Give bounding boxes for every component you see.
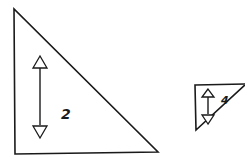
- small-triangle-group: 4: [195, 84, 245, 130]
- large-height-label: 2: [61, 106, 71, 122]
- large-triangle-group: 2: [14, 9, 158, 154]
- large-triangle: [14, 9, 158, 154]
- small-height-label: 4: [220, 94, 229, 107]
- small-triangle: [195, 84, 245, 130]
- diagram-canvas: 2 4: [0, 0, 245, 161]
